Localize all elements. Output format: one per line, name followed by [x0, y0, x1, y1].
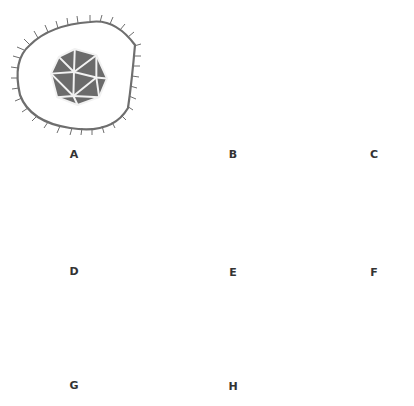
- label-d: D: [69, 265, 78, 278]
- virus-diagram: [0, 0, 414, 406]
- label-e: E: [229, 266, 237, 279]
- label-a: A: [70, 148, 79, 161]
- label-c: C: [370, 148, 378, 161]
- label-g: G: [69, 379, 78, 392]
- label-b: B: [229, 148, 237, 161]
- label-f: F: [370, 266, 378, 279]
- virus-a-figure: [11, 15, 141, 135]
- label-h: H: [228, 380, 237, 393]
